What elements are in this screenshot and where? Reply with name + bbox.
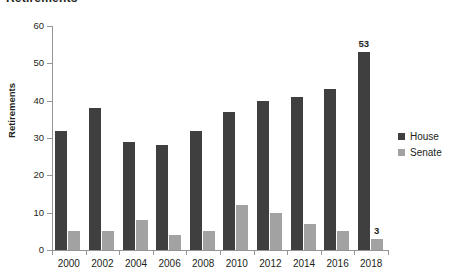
x-axis-tick (153, 250, 154, 255)
bar-house-2018[interactable] (358, 52, 370, 250)
chart-legend: House Senate (398, 128, 442, 160)
x-axis-tick (287, 250, 288, 255)
bar-value-label-senate-2018: 3 (362, 226, 392, 236)
bar-senate-2010[interactable] (236, 205, 248, 250)
y-axis-tick-label: 20 (0, 170, 44, 180)
bar-senate-2004[interactable] (136, 220, 148, 250)
bar-senate-2002[interactable] (102, 231, 114, 250)
x-axis-tick (119, 250, 120, 255)
x-axis-tick (254, 250, 255, 255)
x-axis-tick (186, 250, 187, 255)
y-axis-tick-label: 60 (0, 21, 44, 31)
x-axis-tick (52, 250, 53, 255)
bar-house-2014[interactable] (291, 97, 303, 250)
bar-senate-2016[interactable] (337, 231, 349, 250)
bar-house-2016[interactable] (324, 89, 336, 250)
y-axis-tick-label: 50 (0, 58, 44, 68)
bar-house-2012[interactable] (257, 101, 269, 250)
bar-house-2000[interactable] (55, 131, 67, 250)
plot-area (52, 26, 388, 250)
bar-house-2010[interactable] (223, 112, 235, 250)
chart-title: Retirements (6, 0, 78, 5)
y-axis-tick-label: 40 (0, 96, 44, 106)
legend-item-house[interactable]: House (398, 128, 442, 144)
x-axis-tick (388, 250, 389, 255)
bar-senate-2008[interactable] (203, 231, 215, 250)
y-axis-tick-label: 30 (0, 133, 44, 143)
legend-label-senate: Senate (410, 147, 442, 158)
legend-swatch-senate-icon (398, 149, 405, 156)
bar-senate-2014[interactable] (304, 224, 316, 250)
bar-senate-2012[interactable] (270, 213, 282, 250)
x-axis-tick (86, 250, 87, 255)
y-axis-tick-label: 0 (0, 245, 44, 255)
bar-senate-2000[interactable] (68, 231, 80, 250)
bar-value-label-house-2018: 53 (349, 39, 379, 49)
legend-label-house: House (410, 131, 439, 142)
bar-house-2004[interactable] (123, 142, 135, 250)
bar-senate-2006[interactable] (169, 235, 181, 250)
x-axis-tick (354, 250, 355, 255)
legend-swatch-house-icon (398, 133, 405, 140)
bar-senate-2018[interactable] (371, 239, 383, 250)
legend-item-senate[interactable]: Senate (398, 144, 442, 160)
y-axis-tick-label: 10 (0, 208, 44, 218)
bar-house-2002[interactable] (89, 108, 101, 250)
bar-house-2006[interactable] (156, 145, 168, 250)
x-axis-tick (321, 250, 322, 255)
x-axis-tick-label: 2018 (351, 259, 391, 269)
bar-house-2008[interactable] (190, 131, 202, 250)
x-axis-tick (220, 250, 221, 255)
